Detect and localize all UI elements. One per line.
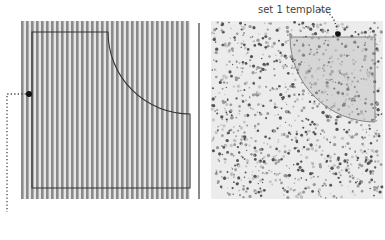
speckle-dot xyxy=(309,101,311,103)
speckle-dot xyxy=(220,185,223,188)
speckle-dot xyxy=(227,153,228,154)
speckle-dot xyxy=(310,143,313,146)
speckle-dot xyxy=(365,129,366,130)
speckle-dot xyxy=(287,89,289,91)
speckle-dot xyxy=(313,176,315,178)
speckle-dot xyxy=(355,182,357,184)
speckle-dot xyxy=(221,134,224,137)
speckle-dot xyxy=(232,64,233,65)
speckle-dot xyxy=(254,158,257,161)
speckle-dot xyxy=(235,97,237,99)
speckle-dot xyxy=(244,114,247,117)
speckle-dot xyxy=(264,32,267,35)
speckle-dot xyxy=(268,37,271,40)
speckle-dot xyxy=(303,106,306,109)
speckle-dot xyxy=(349,175,352,178)
speckle-dot xyxy=(224,101,226,103)
speckle-dot xyxy=(364,150,366,152)
speckle-dot xyxy=(268,137,270,139)
speckle-dot xyxy=(370,155,373,158)
speckle-dot xyxy=(212,87,214,89)
speckle-dot xyxy=(373,33,376,36)
speckle-dot xyxy=(283,68,285,70)
speckle-dot xyxy=(288,187,289,188)
speckle-dot xyxy=(213,38,216,41)
speckle-dot xyxy=(291,29,293,31)
speckle-dot xyxy=(255,166,256,167)
speckle-dot xyxy=(286,104,287,105)
speckle-dot xyxy=(275,54,277,56)
speckle-dot xyxy=(275,148,278,151)
speckle-dot xyxy=(226,113,228,115)
speckle-dot xyxy=(376,49,379,52)
speckle-dot xyxy=(249,65,251,67)
speckle-dot xyxy=(250,137,253,140)
speckle-dot xyxy=(376,190,379,193)
speckle-dot xyxy=(214,110,216,112)
speckle-dot xyxy=(245,81,248,84)
speckle-dot xyxy=(241,155,243,157)
speckle-dot xyxy=(335,128,338,131)
speckle-dot xyxy=(286,165,287,166)
speckle-dot xyxy=(291,126,292,127)
speckle-dot xyxy=(293,106,295,108)
speckle-dot xyxy=(376,154,379,157)
speckle-dot xyxy=(274,106,277,109)
speckle-dot xyxy=(286,196,289,199)
speckle-dot xyxy=(246,124,248,126)
speckle-dot xyxy=(291,85,293,87)
speckle-dot xyxy=(378,190,381,193)
speckle-dot xyxy=(275,115,276,116)
speckle-dot xyxy=(300,160,302,162)
speckle-dot xyxy=(296,162,299,165)
speckle-dot xyxy=(377,186,379,188)
speckle-dot xyxy=(316,123,319,126)
speckle-dot xyxy=(264,135,267,138)
speckle-dot xyxy=(220,79,222,81)
speckle-dot xyxy=(314,133,317,136)
speckle-dot xyxy=(370,179,373,182)
speckle-dot xyxy=(240,139,242,141)
speckle-dot xyxy=(222,124,225,127)
speckle-dot xyxy=(242,100,245,103)
speckle-dot xyxy=(302,98,304,100)
speckle-dot xyxy=(329,141,331,143)
speckle-dot xyxy=(221,176,222,177)
speckle-dot xyxy=(243,43,246,46)
speckle-dot xyxy=(238,113,240,115)
speckle-dot xyxy=(294,100,296,102)
speckle-dot xyxy=(333,195,336,198)
speckle-dot xyxy=(242,157,244,159)
speckle-dot xyxy=(279,52,281,54)
speckle-dot xyxy=(228,70,231,73)
speckle-dot xyxy=(222,88,224,90)
speckle-dot xyxy=(284,145,287,148)
speckle-dot xyxy=(342,146,345,149)
speckle-dot xyxy=(233,126,234,127)
speckle-dot xyxy=(262,105,264,107)
speckle-dot xyxy=(281,107,283,109)
speckle-dot xyxy=(334,172,337,175)
speckle-dot xyxy=(326,119,329,122)
speckle-dot xyxy=(351,164,353,166)
speckle-dot xyxy=(279,125,281,127)
speckle-dot xyxy=(294,119,296,121)
speckle-dot xyxy=(322,150,324,152)
speckle-dot xyxy=(243,40,245,42)
speckle-dot xyxy=(243,131,245,133)
speckle-dot xyxy=(213,59,215,61)
speckle-dot xyxy=(365,169,368,172)
speckle-dot xyxy=(316,105,319,108)
speckle-dot xyxy=(248,25,251,28)
speckle-dot xyxy=(378,133,380,135)
speckle-dot xyxy=(265,172,268,175)
speckle-dot xyxy=(242,26,245,29)
speckle-dot xyxy=(308,92,310,94)
speckle-dot xyxy=(238,105,241,108)
speckle-dot xyxy=(284,150,287,153)
speckle-dot xyxy=(304,27,306,29)
speckle-dot xyxy=(298,93,300,95)
speckle-dot xyxy=(301,82,302,83)
speckle-dot xyxy=(300,177,302,179)
speckle-dot xyxy=(366,153,367,154)
